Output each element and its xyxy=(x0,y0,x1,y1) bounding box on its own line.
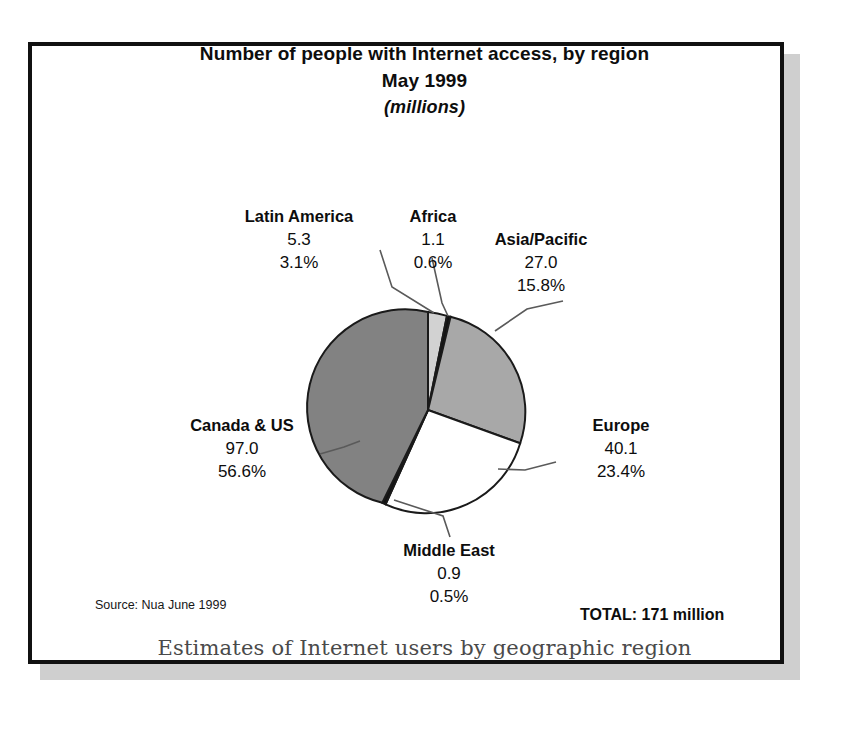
pie-label-europe-name: Europe xyxy=(556,414,686,437)
pie-label-latin-america-name: Latin America xyxy=(214,205,384,228)
pie-label-asia-pacific-pct: 15.8% xyxy=(466,274,616,297)
pie-label-middle-east-pct: 0.5% xyxy=(364,585,534,608)
pie-label-latin-america-pct: 3.1% xyxy=(214,251,384,274)
pie-label-latin-america-value: 5.3 xyxy=(214,228,384,251)
pie-label-africa: Africa 1.1 0.6% xyxy=(388,205,478,274)
pie-label-middle-east: Middle East 0.9 0.5% xyxy=(364,539,534,608)
pie-label-latin-america: Latin America 5.3 3.1% xyxy=(214,205,384,274)
pie-label-europe: Europe 40.1 23.4% xyxy=(556,414,686,483)
pie-label-canada-us-value: 97.0 xyxy=(162,437,322,460)
pie-label-asia-pacific: Asia/Pacific 27.0 15.8% xyxy=(466,228,616,297)
pie-label-asia-pacific-value: 27.0 xyxy=(466,251,616,274)
pie-label-europe-pct: 23.4% xyxy=(556,460,686,483)
pie-label-africa-value: 1.1 xyxy=(388,228,478,251)
chart-title-line-1: Number of people with Internet access, b… xyxy=(200,43,649,64)
page-root: Number of people with Internet access, b… xyxy=(0,0,849,732)
pie-label-middle-east-name: Middle East xyxy=(364,539,534,562)
pie-label-africa-name: Africa xyxy=(388,205,478,228)
figure-caption: Estimates of Internet users by geographi… xyxy=(0,636,849,660)
chart-title-line-2: May 1999 xyxy=(0,67,849,94)
pie-label-europe-value: 40.1 xyxy=(556,437,686,460)
pie-label-middle-east-value: 0.9 xyxy=(364,562,534,585)
pie-label-canada-us: Canada & US 97.0 56.6% xyxy=(162,414,322,483)
pie-label-canada-us-pct: 56.6% xyxy=(162,460,322,483)
pie-label-canada-us-name: Canada & US xyxy=(162,414,322,437)
chart-title: Number of people with Internet access, b… xyxy=(0,40,849,121)
total-note: TOTAL: 171 million xyxy=(580,606,724,624)
source-note: Source: Nua June 1999 xyxy=(95,598,226,612)
pie-label-asia-pacific-name: Asia/Pacific xyxy=(466,228,616,251)
chart-title-units: (millions) xyxy=(0,94,849,121)
pie-label-africa-pct: 0.6% xyxy=(388,251,478,274)
